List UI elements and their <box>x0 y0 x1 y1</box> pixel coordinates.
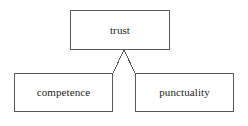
diagram-canvas: trust competence punctuality <box>0 0 248 126</box>
edge-trust-to-punctuality <box>124 50 135 73</box>
node-trust: trust <box>70 10 170 50</box>
node-trust-label: trust <box>110 24 130 37</box>
node-competence-label: competence <box>37 86 91 99</box>
node-competence: competence <box>14 73 113 112</box>
node-punctuality: punctuality <box>135 73 234 112</box>
node-punctuality-label: punctuality <box>159 86 210 99</box>
edge-trust-to-competence <box>113 50 124 73</box>
